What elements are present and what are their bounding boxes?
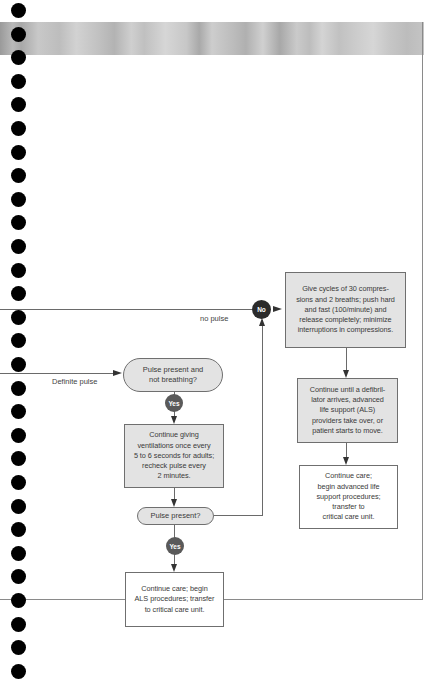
continue-care-left-text: Continue care; beginALS procedures; tran… bbox=[135, 584, 215, 615]
loop-back-line bbox=[262, 320, 263, 516]
continue-ventilations-text: Continue givingventilations once every5 … bbox=[134, 430, 214, 481]
no-pulse-line bbox=[0, 309, 252, 310]
binder-hole bbox=[11, 215, 26, 230]
cpr-cycles-text: Give cycles of 30 compres-sions and 2 br… bbox=[296, 284, 395, 335]
no-badge: No bbox=[252, 300, 271, 319]
binder-hole bbox=[11, 428, 26, 443]
binder-hole bbox=[11, 522, 26, 537]
arrow-down-icon bbox=[171, 416, 177, 424]
arrow-right-icon bbox=[113, 370, 122, 376]
header-banner bbox=[0, 22, 424, 55]
binder-hole bbox=[11, 286, 26, 301]
continue-care-als-text: Continue care;begin advanced lifesupport… bbox=[317, 471, 381, 522]
binder-hole bbox=[11, 404, 26, 419]
binder-hole bbox=[11, 27, 26, 42]
arrow-up-icon bbox=[259, 318, 265, 326]
binder-hole bbox=[11, 50, 26, 65]
yes-badge: Yes bbox=[165, 394, 183, 412]
definite-pulse-label: Definite pulse bbox=[52, 377, 97, 386]
binder-hole bbox=[11, 168, 26, 183]
yes-badge: Yes bbox=[166, 537, 184, 555]
binder-hole bbox=[11, 593, 26, 608]
binder-hole bbox=[11, 381, 26, 396]
arrow-down-icon bbox=[343, 370, 349, 378]
connector-line bbox=[174, 488, 175, 499]
no-pulse-label: no pulse bbox=[200, 314, 228, 323]
binder-hole bbox=[11, 74, 26, 89]
arrow-down-icon bbox=[171, 499, 177, 507]
binder-hole bbox=[11, 569, 26, 584]
arrow-down-icon bbox=[171, 564, 177, 572]
binder-hole bbox=[11, 263, 26, 278]
pulse-present-no-line bbox=[214, 515, 263, 516]
binder-hole bbox=[11, 97, 26, 112]
page-frame-right bbox=[422, 22, 423, 600]
pulse-present-decision: Pulse present? bbox=[137, 507, 214, 525]
continue-until-box: Continue until a defibril-lator arrives,… bbox=[297, 378, 398, 443]
binder-hole bbox=[11, 640, 26, 655]
arrow-right-icon bbox=[273, 306, 282, 312]
cpr-cycles-box: Give cycles of 30 compres-sions and 2 br… bbox=[285, 272, 406, 348]
binder-hole bbox=[11, 357, 26, 372]
binder-hole bbox=[11, 3, 26, 18]
binder-hole bbox=[11, 239, 26, 254]
pulse-present-text: Pulse present? bbox=[150, 511, 200, 521]
arrow-down-icon bbox=[343, 457, 349, 465]
pulse-not-breathing-text: Pulse present andnot breathing? bbox=[143, 365, 203, 385]
binder-hole bbox=[11, 475, 26, 490]
continue-ventilations-box: Continue givingventilations once every5 … bbox=[124, 424, 224, 488]
binder-hole bbox=[11, 499, 26, 514]
binder-hole bbox=[11, 617, 26, 632]
binder-hole bbox=[11, 145, 26, 160]
continue-care-left-box: Continue care; beginALS procedures; tran… bbox=[125, 572, 224, 627]
definite-pulse-line bbox=[0, 373, 113, 374]
binder-hole bbox=[11, 121, 26, 136]
binder-hole bbox=[11, 451, 26, 466]
binder-hole bbox=[11, 664, 26, 679]
connector-line bbox=[346, 443, 347, 457]
binder-hole bbox=[11, 310, 26, 325]
binder-hole bbox=[11, 192, 26, 207]
connector-line bbox=[346, 348, 347, 370]
binder-hole bbox=[11, 546, 26, 561]
continue-care-als-box: Continue care;begin advanced lifesupport… bbox=[299, 465, 398, 529]
continue-until-text: Continue until a defibril-lator arrives,… bbox=[310, 385, 385, 436]
pulse-not-breathing-decision: Pulse present andnot breathing? bbox=[123, 358, 223, 392]
binder-hole bbox=[11, 333, 26, 348]
